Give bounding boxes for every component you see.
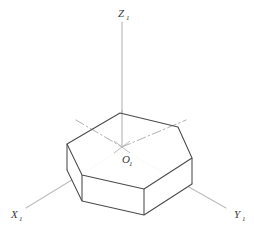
y-axis-label-subscript: 1	[242, 215, 246, 223]
x-axis-label-subscript: 1	[19, 215, 23, 223]
y-axis-label: Y	[234, 208, 242, 220]
z-axis-label: Z	[118, 7, 125, 19]
figure-canvas: Z 1 X 1 Y 1 O 1	[0, 0, 254, 231]
origin-label-subscript: 1	[129, 160, 133, 168]
x-axis-label: X	[10, 208, 19, 220]
hexagonal-prism-diagram: Z 1 X 1 Y 1 O 1	[0, 0, 254, 231]
z-axis-label-subscript: 1	[126, 14, 130, 22]
